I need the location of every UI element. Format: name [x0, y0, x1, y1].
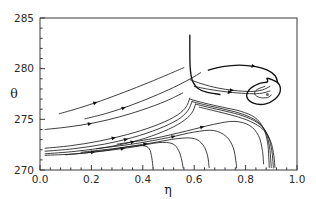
x-tick-label: 0.4: [134, 173, 151, 185]
x-tick-label: 0.0: [32, 173, 49, 185]
plot-canvas: 0.00.20.40.60.81.0270275280285 η θ: [0, 0, 316, 199]
x-axis-title: η: [164, 182, 172, 197]
y-tick-label: 285: [14, 12, 34, 24]
y-tick-label: 270: [14, 164, 34, 176]
x-tick-label: 0.8: [237, 173, 254, 185]
figure-background: [0, 0, 316, 199]
phase-portrait-figure: 0.00.20.40.60.81.0270275280285 η θ: [0, 0, 316, 199]
y-tick-label: 280: [14, 62, 34, 74]
x-tick-label: 1.0: [289, 173, 306, 185]
y-axis-title: θ: [10, 86, 18, 101]
annotation-spiral-focus: [266, 93, 269, 96]
x-tick-label: 0.2: [83, 173, 100, 185]
y-tick-label: 275: [14, 113, 34, 125]
x-tick-label: 0.6: [186, 173, 203, 185]
